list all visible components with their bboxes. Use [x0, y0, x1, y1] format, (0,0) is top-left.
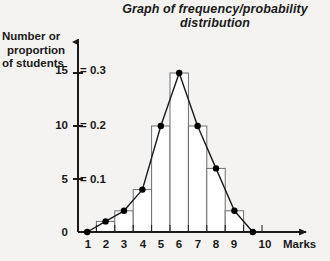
data-point-marker — [139, 186, 145, 192]
data-point-marker — [176, 70, 182, 76]
data-point-marker — [102, 218, 108, 224]
histogram-bar — [207, 168, 225, 232]
data-point-marker — [121, 208, 127, 214]
histogram-bar — [152, 126, 170, 232]
plot-area — [0, 0, 330, 261]
histogram-bar — [170, 73, 188, 232]
data-point-marker — [194, 123, 200, 129]
data-point-marker — [84, 229, 90, 235]
data-point-marker — [250, 229, 256, 235]
data-point-marker — [158, 123, 164, 129]
data-point-marker — [231, 208, 237, 214]
histogram-bars — [96, 73, 243, 232]
data-point-marker — [213, 165, 219, 171]
chart-figure: Graph of frequency/probability distribut… — [0, 0, 330, 261]
